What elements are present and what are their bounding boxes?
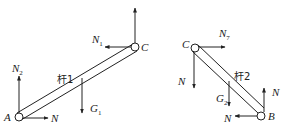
- label-n7: N7: [218, 27, 230, 42]
- rod-1-diagram: A C 杆1 N2 N N1 G1: [3, 8, 149, 124]
- rod-2-label: 杆2: [234, 71, 250, 82]
- label-n-b-up: N: [271, 86, 280, 98]
- rod-1: [17, 44, 137, 120]
- point-label-a: A: [3, 111, 11, 123]
- label-g2: G2: [216, 92, 228, 107]
- pin-c-right: [191, 44, 199, 52]
- label-n-c-down: N: [177, 75, 186, 87]
- free-body-diagram: A C 杆1 N2 N N1 G1 C B 杆2 N7 N G2 N N: [0, 0, 289, 134]
- point-label-c: C: [141, 41, 149, 53]
- point-label-c-right: C: [182, 38, 190, 50]
- label-n-b-left: N: [223, 112, 232, 124]
- pin-a: [15, 113, 23, 121]
- rod-2: [192, 45, 264, 113]
- label-n1: N1: [91, 33, 103, 48]
- label-n2: N2: [11, 62, 23, 77]
- pin-b: [257, 112, 265, 120]
- pin-c: [131, 43, 139, 51]
- label-n-a: N: [50, 112, 59, 124]
- point-label-b: B: [268, 110, 275, 122]
- rod-1-label: 杆1: [57, 74, 73, 85]
- label-g1: G1: [90, 102, 102, 117]
- rod-2-diagram: C B 杆2 N7 N G2 N N: [177, 27, 280, 124]
